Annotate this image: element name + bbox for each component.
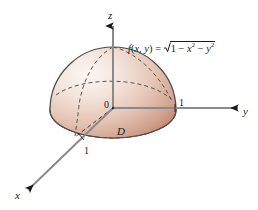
function-formula: f(x, y) = 1 − x2 − y2 bbox=[128, 41, 214, 54]
origin-label: 0 bbox=[104, 100, 109, 110]
formula-radical: 1 − x2 − y2 bbox=[164, 41, 214, 54]
x-unit-label: 1 bbox=[84, 146, 89, 156]
radicand-minus-1: − bbox=[176, 43, 187, 54]
radical-vinculum bbox=[170, 41, 215, 42]
origin-marker bbox=[112, 107, 114, 109]
y-unit-label: 1 bbox=[179, 98, 184, 108]
formula-equals: = bbox=[153, 43, 164, 54]
hemisphere-figure: z y x 0 1 1 D f(x, y) = 1 − x2 − y2 bbox=[0, 0, 258, 210]
radicand-minus-2: − bbox=[195, 43, 206, 54]
axis-z-label: z bbox=[108, 10, 112, 21]
axis-y-label: y bbox=[243, 106, 248, 117]
figure-canvas bbox=[0, 0, 258, 210]
radical-sign-icon bbox=[164, 42, 171, 52]
radicand-exp-y: 2 bbox=[211, 41, 214, 48]
axis-x-label: x bbox=[15, 190, 20, 201]
domain-label: D bbox=[117, 126, 125, 137]
